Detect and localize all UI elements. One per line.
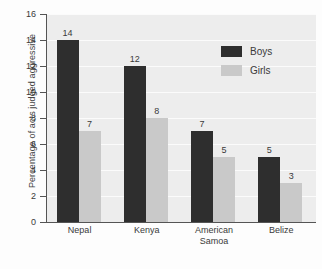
y-axis-tick-label: 4 <box>31 165 36 175</box>
y-axis-tick: 10 <box>40 92 47 93</box>
y-axis-tick: 4 <box>40 170 47 171</box>
x-axis-label-line: Samoa <box>181 236 248 247</box>
legend-item-boys[interactable]: Boys <box>221 42 272 61</box>
x-axis-label-line: American <box>181 225 248 236</box>
bar-value-label: 5 <box>267 145 272 155</box>
bar-value-label: 14 <box>63 28 73 38</box>
y-axis-tick-label: 2 <box>31 191 36 201</box>
bar-value-label: 5 <box>222 145 227 155</box>
y-axis-tick: 8 <box>40 118 47 119</box>
bar-series-layer: 1471287553 <box>47 14 316 222</box>
bar-chart-figure: Percentage of acts judged aggressive 147… <box>0 0 322 269</box>
bar-value-label: 7 <box>200 119 205 129</box>
chart-legend: Boys Girls <box>221 42 272 80</box>
x-axis-category-labels: NepalKenyaAmericanSamoaBelize <box>46 225 316 265</box>
y-axis-tick-label: 14 <box>26 35 36 45</box>
plot-area: 1471287553 0246810121416 <box>46 14 316 223</box>
legend-swatch-boys-icon <box>221 46 242 57</box>
bar-boys-nepal[interactable]: 14 <box>57 40 79 222</box>
x-axis-label-line: Nepal <box>46 225 113 236</box>
bar-group: 128 <box>124 14 168 222</box>
bar-value-label: 7 <box>87 119 92 129</box>
legend-label-girls: Girls <box>250 65 271 76</box>
y-axis-tick: 16 <box>40 14 47 15</box>
bar-girls-american-samoa[interactable]: 5 <box>213 157 235 222</box>
bar-girls-nepal[interactable]: 7 <box>79 131 101 222</box>
x-axis-label-line: Kenya <box>113 225 180 236</box>
legend-label-boys: Boys <box>250 46 272 57</box>
y-axis-tick-label: 16 <box>26 9 36 19</box>
y-axis-tick-label: 12 <box>26 61 36 71</box>
bar-boys-american-samoa[interactable]: 7 <box>191 131 213 222</box>
y-axis-tick: 12 <box>40 66 47 67</box>
x-axis-label-belize: Belize <box>248 225 315 236</box>
bar-girls-kenya[interactable]: 8 <box>146 118 168 222</box>
y-axis-tick: 0 <box>40 222 47 223</box>
bar-group: 147 <box>57 14 101 222</box>
y-axis-tick-label: 10 <box>26 87 36 97</box>
x-axis-label-nepal: Nepal <box>46 225 113 236</box>
x-axis-label-line: Belize <box>248 225 315 236</box>
x-axis-label-kenya: Kenya <box>113 225 180 236</box>
bar-boys-kenya[interactable]: 12 <box>124 66 146 222</box>
y-axis-tick: 14 <box>40 40 47 41</box>
bar-boys-belize[interactable]: 5 <box>258 157 280 222</box>
bar-value-label: 12 <box>130 54 140 64</box>
legend-swatch-girls-icon <box>221 65 242 76</box>
y-axis-tick: 2 <box>40 196 47 197</box>
bar-girls-belize[interactable]: 3 <box>280 183 302 222</box>
x-axis-label-american-samoa: AmericanSamoa <box>181 225 248 247</box>
bar-value-label: 8 <box>154 106 159 116</box>
y-axis-tick-label: 0 <box>31 217 36 227</box>
y-axis-tick: 6 <box>40 144 47 145</box>
legend-item-girls[interactable]: Girls <box>221 61 272 80</box>
y-axis-tick-label: 6 <box>31 139 36 149</box>
bar-value-label: 3 <box>289 171 294 181</box>
y-axis-tick-label: 8 <box>31 113 36 123</box>
